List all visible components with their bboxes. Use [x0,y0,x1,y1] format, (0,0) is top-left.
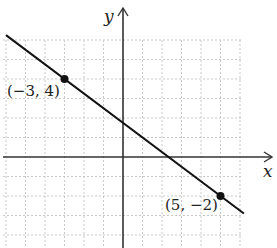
coordinate-plane: x y (−3, 4) (5, −2) [0,0,277,248]
data-line [6,35,244,213]
point-label: (5, −2) [165,196,218,214]
point-label: (−3, 4) [7,82,60,100]
y-axis-label: y [103,6,114,26]
x-axis-label: x [263,161,273,181]
point-marker [61,75,69,83]
